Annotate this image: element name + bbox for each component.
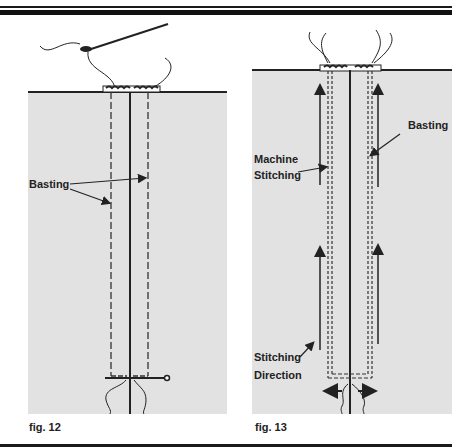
fig13-basting-label: Basting bbox=[408, 118, 448, 132]
fig13-direction-label-line2: Direction bbox=[254, 368, 302, 382]
diagram-artwork bbox=[0, 0, 472, 448]
fig12-thread-right bbox=[152, 58, 171, 88]
bottom-rule bbox=[0, 444, 452, 447]
fig12-needle bbox=[40, 24, 168, 88]
fig13-machine-label-line2: Stitching bbox=[254, 168, 301, 182]
fig13-threads-top bbox=[309, 30, 392, 63]
fig12-caption: fig. 12 bbox=[29, 421, 61, 433]
fig13-machine-stitching-label: Machine Stitching bbox=[254, 152, 301, 182]
fig13-direction-label-line1: Stitching bbox=[254, 350, 302, 364]
fig13-caption: fig. 13 bbox=[255, 421, 287, 433]
fig12-basting-label: Basting bbox=[29, 177, 69, 191]
fig12-knots bbox=[103, 86, 160, 92]
fig13-machine-label-line1: Machine bbox=[254, 152, 301, 166]
fig13-stitching-direction-label: Stitching Direction bbox=[254, 350, 302, 382]
